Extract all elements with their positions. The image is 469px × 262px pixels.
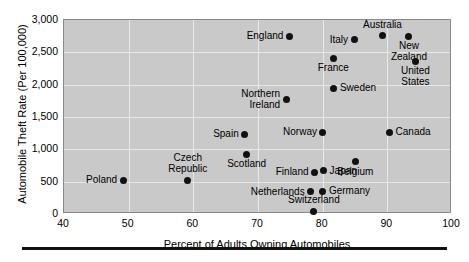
gridline-vertical	[387, 20, 388, 212]
data-point	[243, 151, 250, 158]
y-tick-label: 500	[2, 175, 58, 187]
data-point-label: Spain	[213, 129, 239, 140]
gridline-vertical	[323, 20, 324, 212]
data-point-label: Finland	[276, 167, 309, 178]
y-tick-label: 2,500	[2, 45, 58, 57]
data-point-label: Northern Ireland	[241, 89, 280, 110]
x-tick-label: 70	[237, 217, 277, 229]
data-point	[351, 36, 358, 43]
data-point-label: Czech Republic	[168, 153, 207, 174]
data-point-label: England	[247, 31, 284, 42]
x-tick-label: 100	[431, 217, 469, 229]
data-point	[311, 169, 318, 176]
gridline-horizontal	[64, 85, 450, 86]
gridline-vertical	[258, 20, 259, 212]
gridline-vertical	[129, 20, 130, 212]
data-point-label: Sweden	[340, 83, 376, 94]
gridline-horizontal	[64, 149, 450, 150]
x-tick-label: 50	[108, 217, 148, 229]
y-tick-label: 1,000	[2, 142, 58, 154]
data-point	[184, 177, 191, 184]
data-point	[310, 208, 317, 215]
y-tick-label: 1,500	[2, 110, 58, 122]
bottom-divider-rule	[22, 247, 447, 250]
y-tick-label: 0	[2, 207, 58, 219]
gridline-horizontal	[64, 117, 450, 118]
x-tick-label: 90	[366, 217, 406, 229]
data-point-label: France	[318, 63, 349, 74]
data-point-label: Belgium	[337, 167, 373, 178]
data-point-label: Scotland	[227, 159, 266, 170]
data-point	[386, 129, 393, 136]
data-point-label: United States	[401, 66, 430, 87]
data-point-label: Italy	[330, 34, 348, 45]
x-tick-label: 60	[172, 217, 212, 229]
data-point	[120, 177, 127, 184]
y-tick-label: 2,000	[2, 78, 58, 90]
data-point-label: Canada	[396, 127, 431, 138]
data-point	[330, 55, 337, 62]
data-point-label: Norway	[283, 127, 317, 138]
data-point-label: Germany	[329, 186, 370, 197]
data-point-label: New Zealand	[391, 41, 427, 62]
gridline-vertical	[193, 20, 194, 212]
data-point	[283, 96, 290, 103]
data-point	[286, 33, 293, 40]
scatter-chart-figure: Automobile Theft Rate (Per 100,000) Perc…	[0, 0, 469, 262]
y-tick-label: 3,000	[2, 13, 58, 25]
data-point-label: Australia	[363, 19, 402, 30]
data-point-label: Poland	[86, 175, 117, 186]
x-tick-label: 80	[302, 217, 342, 229]
data-point	[412, 58, 419, 65]
